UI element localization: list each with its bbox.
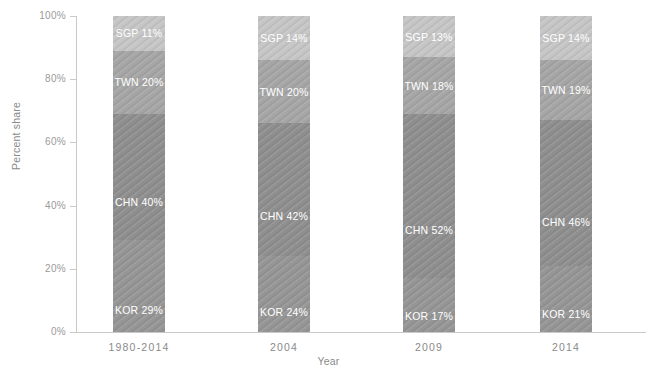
bar-segment-twn[interactable]: TWN 20%	[258, 60, 310, 123]
bar-segment-kor[interactable]: KOR 21%	[540, 266, 592, 332]
bar-segment-label: SGP 13%	[403, 31, 455, 43]
y-tick-label-wrap: 100%	[18, 10, 66, 22]
bar-segment-kor[interactable]: KOR 17%	[403, 278, 455, 332]
stacked-bar-chart: Percent share Year 100%80%60%40%20%0% SG…	[0, 0, 657, 383]
y-tick-label-wrap: 40%	[18, 200, 66, 212]
bar-segment-label: SGP 14%	[258, 32, 310, 44]
x-tick-label: 2014	[506, 341, 626, 353]
bar-segment-chn[interactable]: CHN 42%	[258, 123, 310, 256]
x-tick-label: 2009	[369, 341, 489, 353]
bar-segment-label: CHN 52%	[403, 224, 455, 236]
bar-segment-label: TWN 20%	[113, 76, 165, 88]
bar-segment-sgp[interactable]: SGP 13%	[403, 16, 455, 57]
y-tick-label-wrap: 20%	[18, 263, 66, 275]
bar-segment-label: KOR 29%	[113, 304, 165, 316]
bar-segment-label: SGP 11%	[113, 27, 165, 39]
x-tick-label: 1980-2014	[79, 341, 199, 353]
bar-segment-twn[interactable]: TWN 18%	[403, 57, 455, 114]
bar-segment-chn[interactable]: CHN 52%	[403, 114, 455, 278]
y-tick-mark	[70, 269, 76, 270]
bar-segment-chn[interactable]: CHN 40%	[113, 114, 165, 240]
bar-1980-2014[interactable]: SGP 11%TWN 20%CHN 40%KOR 29%	[113, 16, 165, 332]
y-tick-label: 60%	[26, 136, 66, 147]
y-tick-label: 20%	[26, 263, 66, 274]
y-tick-mark	[70, 79, 76, 80]
bar-segment-sgp[interactable]: SGP 14%	[258, 16, 310, 60]
y-tick-label-wrap: 0%	[18, 326, 66, 338]
bar-segment-kor[interactable]: KOR 29%	[113, 240, 165, 332]
bar-segment-label: TWN 20%	[258, 86, 310, 98]
x-axis-line	[76, 332, 646, 333]
x-axis-title: Year	[0, 355, 657, 367]
y-axis-title: Percent share	[10, 50, 22, 170]
y-tick-label: 100%	[26, 10, 66, 21]
x-tick-label: 2004	[224, 341, 344, 353]
y-tick-mark	[70, 16, 76, 17]
bar-segment-sgp[interactable]: SGP 14%	[540, 16, 592, 60]
bar-segment-chn[interactable]: CHN 46%	[540, 120, 592, 265]
bar-segment-twn[interactable]: TWN 19%	[540, 60, 592, 120]
y-tick-label-wrap: 80%	[18, 73, 66, 85]
y-tick-label: 40%	[26, 200, 66, 211]
bar-2014[interactable]: SGP 14%TWN 19%CHN 46%KOR 21%	[540, 16, 592, 332]
y-tick-mark	[70, 332, 76, 333]
y-tick-label-wrap: 60%	[18, 136, 66, 148]
bar-segment-label: KOR 24%	[258, 306, 310, 318]
y-tick-label: 80%	[26, 73, 66, 84]
y-tick-mark	[70, 206, 76, 207]
bar-segment-kor[interactable]: KOR 24%	[258, 256, 310, 332]
bar-segment-label: TWN 19%	[540, 84, 592, 96]
bar-segment-label: CHN 46%	[540, 216, 592, 228]
bar-segment-label: KOR 17%	[403, 310, 455, 322]
y-axis-line	[76, 16, 77, 333]
bar-segment-label: SGP 14%	[540, 32, 592, 44]
y-tick-label: 0%	[26, 326, 66, 337]
bar-segment-label: KOR 21%	[540, 308, 592, 320]
bar-segment-twn[interactable]: TWN 20%	[113, 51, 165, 114]
bar-segment-sgp[interactable]: SGP 11%	[113, 16, 165, 51]
bar-segment-label: CHN 42%	[258, 210, 310, 222]
bar-segment-label: CHN 40%	[113, 196, 165, 208]
bar-2009[interactable]: SGP 13%TWN 18%CHN 52%KOR 17%	[403, 16, 455, 332]
y-tick-mark	[70, 142, 76, 143]
bar-2004[interactable]: SGP 14%TWN 20%CHN 42%KOR 24%	[258, 16, 310, 332]
bar-segment-label: TWN 18%	[403, 80, 455, 92]
